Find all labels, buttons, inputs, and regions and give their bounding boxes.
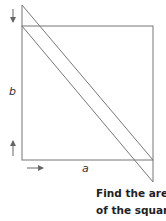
outer-diagonal <box>22 5 153 160</box>
caption-line-1: Find the area <box>96 185 166 202</box>
inner-diagonal <box>22 26 153 182</box>
label-side-a: a <box>82 163 89 174</box>
caption: Find the area of the square <box>96 185 166 219</box>
caption-line-2: of the square <box>96 202 166 219</box>
square <box>22 26 153 160</box>
label-side-b: b <box>9 86 16 97</box>
